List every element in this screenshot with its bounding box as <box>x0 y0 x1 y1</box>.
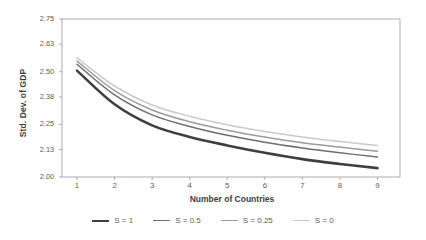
legend-item[interactable]: S = 0.5 <box>153 216 201 225</box>
legend-item[interactable]: S = 0.25 <box>221 216 273 225</box>
legend-label: S = 1 <box>114 216 133 225</box>
plot-canvas <box>0 0 426 240</box>
legend-item[interactable]: S = 1 <box>92 216 133 225</box>
legend-label: S = 0.25 <box>243 216 273 225</box>
chart-legend: S = 1S = 0.5S = 0.25S = 0 <box>0 216 426 225</box>
legend-label: S = 0 <box>315 216 334 225</box>
legend-swatch-icon <box>92 220 109 222</box>
legend-label: S = 0.5 <box>175 216 201 225</box>
legend-swatch-icon <box>153 220 170 221</box>
legend-swatch-icon <box>293 220 310 221</box>
chart-figure: Std. Dev. of GDP Number of Countries 2.7… <box>0 0 426 240</box>
legend-item[interactable]: S = 0 <box>293 216 334 225</box>
legend-swatch-icon <box>221 220 238 221</box>
